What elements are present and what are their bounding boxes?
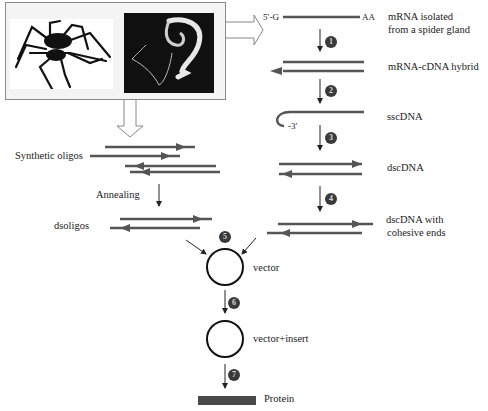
step-badge-5: 5 xyxy=(219,231,231,243)
polya-end-label: AA xyxy=(362,11,375,23)
step-badge-2: 2 xyxy=(325,85,337,97)
label-cohesive-ends: cohesive ends xyxy=(387,227,446,239)
hollow-arrow-down-icon xyxy=(117,100,143,137)
hollow-arrow-right-icon xyxy=(226,15,263,45)
label-from-spider-gland: from a spider gland xyxy=(388,24,470,36)
label-annealing: Annealing xyxy=(96,189,140,201)
label-sscdna: sscDNA xyxy=(387,111,423,123)
label-protein: Protein xyxy=(264,393,294,405)
label-dsoligos: dsoligos xyxy=(54,220,89,232)
label-dscdna-with: dscDNA with xyxy=(386,214,443,226)
step-badge-7: 7 xyxy=(228,369,240,381)
label-vector: vector xyxy=(253,262,279,274)
label-mrna-isolated: mRNA isolated xyxy=(388,11,453,23)
step-badge-4: 4 xyxy=(325,193,337,205)
label-mrna-cdna-hybrid: mRNA-cDNA hybrid xyxy=(388,61,479,73)
step-badge-1: 1 xyxy=(325,36,337,48)
three-prime-end-label: -3′ xyxy=(288,120,297,132)
label-synthetic-oligos: Synthetic oligos xyxy=(15,150,83,162)
vector-plasmid-icon xyxy=(207,249,243,285)
vector-insert-plasmid-icon xyxy=(207,321,243,357)
protein-bar-icon xyxy=(198,396,256,405)
label-vector-insert: vector+insert xyxy=(253,333,308,345)
step-badge-3: 3 xyxy=(325,132,337,144)
label-dscdna: dscDNA xyxy=(387,162,424,174)
five-prime-end-label: 5′-G xyxy=(263,11,279,23)
step-badge-6: 6 xyxy=(228,297,240,309)
